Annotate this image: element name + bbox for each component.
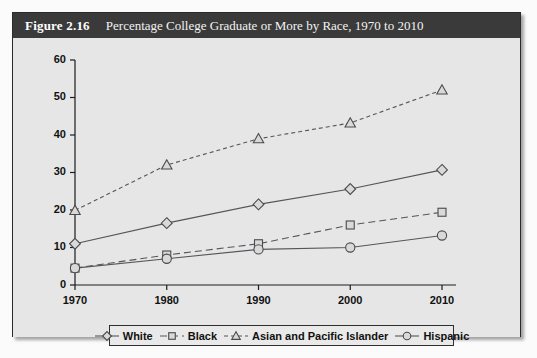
y-tick-label: 0	[60, 278, 66, 290]
figure-number: Figure 2.16	[25, 18, 90, 34]
data-point	[254, 245, 263, 254]
legend-item-white[interactable]: White	[94, 329, 153, 343]
series-layer	[70, 85, 448, 273]
data-point	[161, 218, 172, 229]
square-marker-icon	[159, 329, 185, 343]
data-point	[346, 221, 354, 229]
y-tick-label: 40	[54, 128, 66, 140]
x-tick-label: 1990	[246, 294, 270, 306]
figure-title: Percentage College Graduate or More by R…	[106, 18, 424, 34]
series-white	[70, 164, 448, 249]
y-tick-label: 30	[54, 165, 66, 177]
data-point	[345, 118, 355, 127]
circle-marker-icon	[394, 329, 420, 343]
triangle-marker-icon	[223, 329, 249, 343]
legend-label: White	[123, 330, 153, 342]
data-point	[253, 134, 263, 143]
y-tick-label: 60	[54, 53, 66, 65]
x-tick-label: 1970	[63, 294, 87, 306]
y-tick-label: 10	[54, 240, 66, 252]
x-tick-label: 2000	[338, 294, 362, 306]
legend-label: Hispanic	[423, 330, 469, 342]
data-point	[162, 254, 171, 263]
legend-item-asian-and-pacific-islander[interactable]: Asian and Pacific Islander	[223, 329, 388, 343]
data-point	[437, 164, 448, 175]
legend-item-black[interactable]: Black	[159, 329, 217, 343]
y-axis: 0102030405060	[54, 53, 75, 290]
series-hispanic	[70, 231, 446, 273]
chart-plot-area: 0102030405060 19701980199020002010	[13, 38, 520, 337]
x-tick-label: 1980	[155, 294, 179, 306]
legend-label: Black	[188, 330, 217, 342]
x-tick-label: 2010	[430, 294, 454, 306]
chart-legend: WhiteBlackAsian and Pacific IslanderHisp…	[109, 325, 454, 346]
figure-title-bar: Figure 2.16 Percentage College Graduate …	[13, 13, 520, 38]
x-axis: 19701980199020002010	[63, 285, 456, 306]
y-tick-label: 50	[54, 90, 66, 102]
data-point	[437, 85, 447, 94]
data-point	[253, 199, 264, 210]
line-chart: 0102030405060 19701980199020002010	[13, 38, 520, 337]
figure-caption	[60, 344, 480, 356]
data-point	[346, 243, 355, 252]
legend-label: Asian and Pacific Islander	[252, 330, 388, 342]
figure-container: Figure 2.16 Percentage College Graduate …	[12, 12, 521, 337]
data-point	[70, 264, 79, 273]
series-asian-and-pacific-islander	[70, 85, 447, 215]
data-point	[345, 184, 356, 195]
data-point	[438, 208, 446, 216]
diamond-marker-icon	[94, 329, 120, 343]
y-tick-label: 20	[54, 203, 66, 215]
data-point	[437, 231, 446, 240]
legend-item-hispanic[interactable]: Hispanic	[394, 329, 469, 343]
